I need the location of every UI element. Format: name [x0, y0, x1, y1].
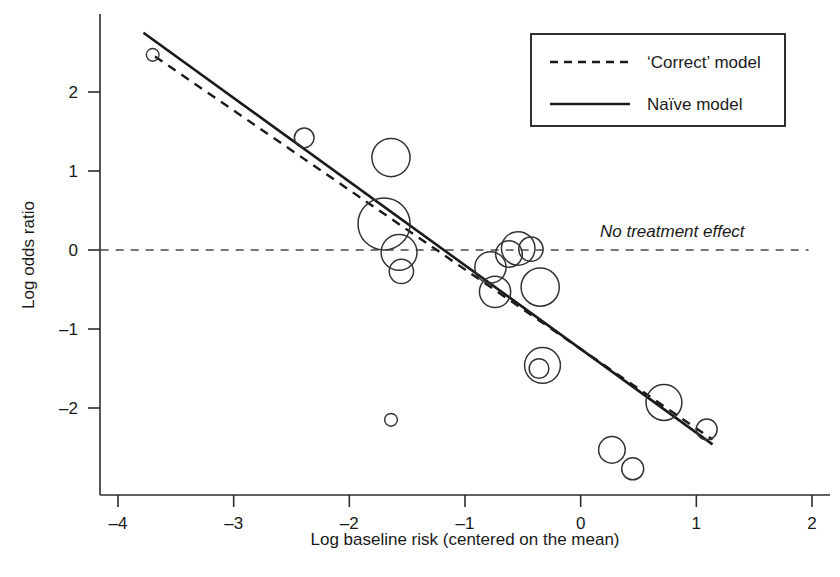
y-tick-label-2: 0 — [69, 241, 78, 260]
data-point-bubble — [622, 458, 644, 480]
data-point-bubble — [294, 128, 314, 148]
y-tick-label-0: –2 — [59, 399, 78, 418]
y-tick-label-1: –1 — [59, 320, 78, 339]
x-tick-label-1: –3 — [224, 514, 243, 533]
x-tick-label-6: 2 — [807, 514, 816, 533]
legend-label-correct-model: ‘Correct’ model — [647, 53, 761, 72]
y-tick-label-3: 1 — [69, 162, 78, 181]
data-point-bubble — [521, 268, 559, 306]
legend-label-naive-model: Naïve model — [647, 95, 742, 114]
data-point-bubble — [385, 413, 398, 426]
legend[interactable]: ‘Correct’ model Naïve model — [531, 34, 785, 126]
y-axis-tick-labels: –2–1012 — [59, 83, 78, 418]
y-axis-label: Log odds ratio — [19, 201, 38, 309]
x-tick-label-5: 1 — [692, 514, 701, 533]
no-treatment-effect-label: No treatment effect — [600, 222, 746, 241]
y-tick-label-4: 2 — [69, 83, 78, 102]
x-tick-label-0: –4 — [109, 514, 128, 533]
figure-container: –4–3–2–1012 –2–1012 Log baseline risk (c… — [0, 0, 840, 577]
data-point-bubble — [372, 138, 410, 176]
x-axis-ticks — [118, 495, 812, 507]
scatter-plot-svg: –4–3–2–1012 –2–1012 Log baseline risk (c… — [0, 0, 840, 577]
x-axis-label: Log baseline risk (centered on the mean) — [310, 530, 619, 549]
data-point-bubble — [646, 385, 682, 421]
data-point-bubble — [479, 276, 510, 307]
data-point-bubble — [599, 437, 626, 464]
data-point-bubble — [529, 359, 549, 379]
data-point-bubble — [389, 259, 413, 283]
y-axis-ticks — [88, 92, 100, 408]
data-point-bubble — [146, 49, 159, 62]
